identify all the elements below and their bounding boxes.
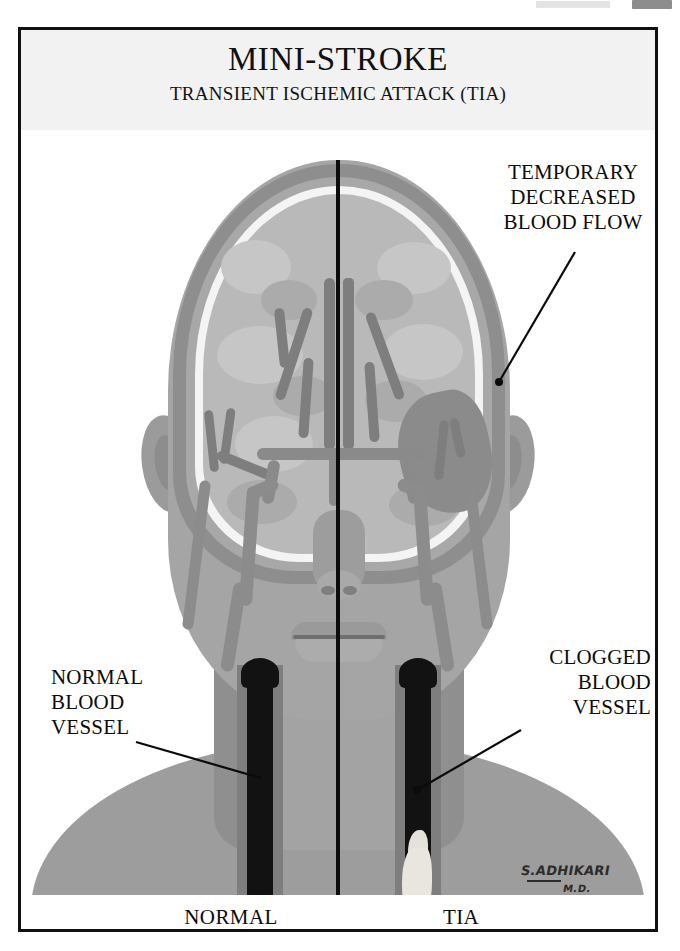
label-line: TEMPORARY bbox=[493, 160, 653, 185]
label-line: BLOOD bbox=[491, 670, 651, 695]
label-line: CLOGGED bbox=[491, 645, 651, 670]
label-line: BLOOD FLOW bbox=[493, 210, 653, 235]
label-line: BLOOD bbox=[51, 690, 221, 715]
chrome-button-fragment[interactable] bbox=[632, 0, 672, 9]
bottom-label-strip bbox=[21, 895, 655, 932]
label-temporary-decreased-blood-flow: TEMPORARY DECREASED BLOOD FLOW bbox=[493, 160, 653, 235]
circle-of-willis bbox=[257, 448, 425, 460]
signature-underline bbox=[527, 880, 561, 882]
vessel-lumen-normal bbox=[247, 670, 273, 932]
label-normal-blood-vessel: NORMAL BLOOD VESSEL bbox=[51, 665, 221, 740]
chrome-text-fragment bbox=[536, 1, 610, 8]
signature-name: S.ADHIKARI bbox=[520, 863, 633, 878]
illustration-frame: MINI-STROKE TRANSIENT ISCHEMIC ATTACK (T… bbox=[18, 27, 658, 932]
artist-signature: S.ADHIKARI M.D. bbox=[521, 863, 631, 894]
sulcus-texture bbox=[355, 280, 413, 320]
comparison-label-normal: NORMAL bbox=[161, 905, 301, 930]
signature-credential: M.D. bbox=[562, 883, 632, 894]
page-subtitle: TRANSIENT ISCHEMIC ATTACK (TIA) bbox=[21, 84, 655, 103]
nostril-right bbox=[343, 586, 357, 595]
label-line: VESSEL bbox=[491, 695, 651, 720]
cerebral-vessel-trunk-right bbox=[343, 278, 354, 450]
label-line: DECREASED bbox=[493, 185, 653, 210]
illustration-stage: TEMPORARY DECREASED BLOOD FLOW NORMAL BL… bbox=[21, 130, 655, 932]
label-line: NORMAL bbox=[51, 665, 221, 690]
page-title: MINI-STROKE bbox=[21, 43, 655, 76]
comparison-label-tia: TIA bbox=[391, 905, 531, 930]
title-block: MINI-STROKE TRANSIENT ISCHEMIC ATTACK (T… bbox=[21, 30, 655, 130]
center-divider-line bbox=[336, 160, 340, 932]
browser-chrome-fragment bbox=[0, 0, 680, 14]
label-clogged-blood-vessel: CLOGGED BLOOD VESSEL bbox=[491, 645, 651, 720]
cerebral-vessel-trunk-left bbox=[324, 278, 335, 450]
nostril-left bbox=[321, 586, 335, 595]
label-line: VESSEL bbox=[51, 715, 221, 740]
